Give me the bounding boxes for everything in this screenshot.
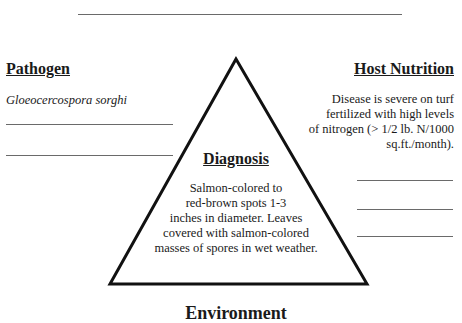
pathogen-name: Gloeocercospora sorghi <box>6 93 127 108</box>
pathogen-heading: Pathogen <box>6 60 70 78</box>
diagnosis-text: Salmon-colored to red-brown spots 1-3 in… <box>0 181 462 256</box>
host-nutrition-heading: Host Nutrition <box>354 60 454 78</box>
host-nutrition-line: fertilized with high levels <box>309 107 454 122</box>
diagnosis-line: Salmon-colored to <box>0 181 462 196</box>
diagnosis-line: masses of spores in wet weather. <box>0 241 462 256</box>
diagnosis-line: covered with salmon-colored <box>0 226 462 241</box>
diagnosis-line: inches in diameter. Leaves <box>0 211 462 226</box>
pathogen-blank-line-1 <box>6 124 173 125</box>
environment-heading: Environment <box>0 303 462 323</box>
diagnosis-heading: Diagnosis <box>0 150 462 168</box>
host-nutrition-text: Disease is severe on turf fertilized wit… <box>309 92 454 152</box>
diagnosis-line: red-brown spots 1-3 <box>0 196 462 211</box>
host-nutrition-line: of nitrogen (> 1/2 lb. N/1000 <box>309 122 454 137</box>
host-nutrition-line: Disease is severe on turf <box>309 92 454 107</box>
